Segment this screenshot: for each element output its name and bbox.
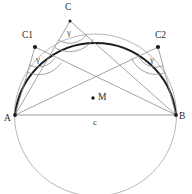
- label-angle-gamma-c: γ: [67, 28, 71, 37]
- label-angle-gamma-c2: γ: [150, 55, 154, 64]
- segment-c1-a: [15, 47, 35, 115]
- point-dot-c: [69, 20, 72, 23]
- segment-c1-b: [35, 47, 176, 115]
- point-dot-m: [91, 96, 94, 99]
- label-angle-gamma-c1: γ: [36, 55, 40, 64]
- label-chord-c: c: [93, 118, 97, 127]
- geometry-figure: C C1 C2 A B M c γ γ γ: [0, 0, 192, 194]
- point-dot-c2: [156, 45, 160, 49]
- point-dot-a: [13, 113, 17, 117]
- angle-arc-c-inner: [59, 34, 87, 43]
- point-dot-b: [174, 113, 178, 117]
- label-point-c1: C1: [22, 31, 33, 41]
- label-point-b: B: [179, 112, 185, 122]
- label-point-c: C: [65, 3, 71, 13]
- label-point-c2: C2: [155, 31, 166, 41]
- label-center-m: M: [98, 93, 106, 103]
- label-point-a: A: [4, 114, 11, 124]
- point-dot-c1: [33, 45, 37, 49]
- segment-c2-b: [158, 47, 176, 115]
